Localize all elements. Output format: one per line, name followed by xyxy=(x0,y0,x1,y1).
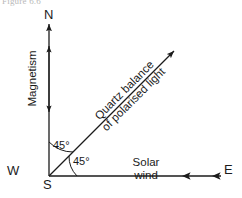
figure-container: Figure 6.6 xyxy=(0,0,242,198)
angle-label-lower: 45° xyxy=(73,155,90,167)
magnetism-label: Magnetism xyxy=(26,33,39,123)
solar-wind-label: Solar wind xyxy=(124,156,168,182)
solar-wind-label-line1: Solar xyxy=(124,156,168,169)
compass-label-south: S xyxy=(43,178,52,193)
compass-label-north: N xyxy=(44,8,53,23)
compass-label-west: W xyxy=(7,164,19,179)
compass-label-east: E xyxy=(224,163,233,178)
angle-label-upper: 45° xyxy=(53,139,70,151)
solar-wind-label-line2: wind xyxy=(124,169,168,182)
